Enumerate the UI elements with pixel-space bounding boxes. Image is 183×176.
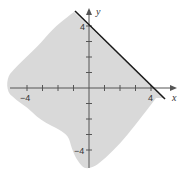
x-axis-arrow-icon (170, 85, 177, 91)
y-tick-label-4: 4 (80, 22, 85, 32)
x-tick-label-neg4: −4 (20, 93, 30, 103)
y-axis-label: y (95, 6, 101, 17)
shaded-region (7, 12, 164, 168)
x-axis-label: x (171, 92, 177, 103)
y-tick-label-neg4: −4 (74, 146, 84, 156)
x-tick-label-4: 4 (148, 93, 153, 103)
y-axis-arrow-icon (86, 8, 92, 15)
inequality-graph: y x 4 −4 −4 4 (0, 0, 183, 176)
